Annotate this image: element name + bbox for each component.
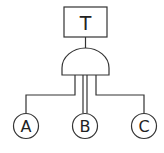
connector-a (26, 75, 75, 113)
connector-c (96, 75, 144, 113)
basic-event-b-label: B (80, 117, 91, 136)
basic-event-a-label: A (21, 117, 32, 136)
fault-tree-diagram: T A B C (0, 0, 164, 153)
basic-event-c-label: C (138, 117, 149, 136)
and-gate-icon (62, 48, 109, 75)
top-event-label: T (79, 12, 92, 34)
